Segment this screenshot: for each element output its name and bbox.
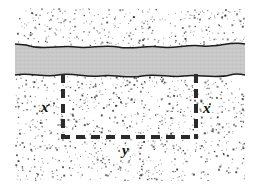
dimension-label-x-left: x bbox=[41, 100, 49, 115]
dimension-label-x-right: x bbox=[203, 101, 211, 116]
figure-container: x x y bbox=[0, 0, 259, 190]
stippled-ground bbox=[15, 8, 246, 182]
stream-band bbox=[15, 43, 245, 77]
dimension-label-y: y bbox=[122, 143, 129, 158]
figure-canvas bbox=[0, 0, 259, 190]
